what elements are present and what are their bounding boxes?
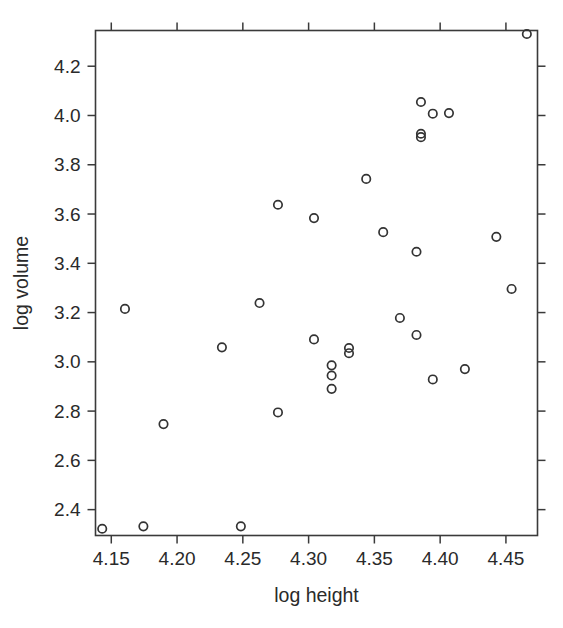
y-tick-label: 3.6 [54, 204, 80, 225]
y-tick-label: 2.6 [54, 450, 80, 471]
data-point[interactable] [492, 233, 500, 241]
plot-frame-box [96, 31, 538, 536]
data-point[interactable] [274, 201, 282, 209]
data-point[interactable] [412, 331, 420, 339]
data-point[interactable] [412, 248, 420, 256]
scatter-plot-figure: 4.154.204.254.304.354.404.452.42.62.83.0… [0, 0, 563, 628]
data-point[interactable] [417, 98, 425, 106]
data-point[interactable] [429, 375, 437, 383]
x-axis: 4.154.204.254.304.354.404.45 [93, 23, 525, 569]
data-point[interactable] [159, 420, 167, 428]
y-axis-title: log volume [10, 236, 32, 330]
x-tick-label: 4.40 [422, 548, 459, 569]
data-point[interactable] [362, 175, 370, 183]
y-tick-label: 3.4 [54, 253, 81, 274]
data-point[interactable] [345, 349, 353, 357]
data-point[interactable] [461, 365, 469, 373]
y-tick-label: 3.2 [54, 302, 80, 323]
y-tick-label: 3.0 [54, 351, 80, 372]
x-axis-title: log height [274, 584, 359, 606]
y-tick-label: 2.8 [54, 401, 80, 422]
y-axis: 2.42.62.83.03.23.43.63.84.04.2 [54, 56, 545, 520]
data-point[interactable] [445, 109, 453, 117]
y-tick-label: 4.0 [54, 105, 80, 126]
x-tick-label: 4.35 [356, 548, 393, 569]
data-point[interactable] [327, 361, 335, 369]
x-tick-label: 4.45 [487, 548, 524, 569]
data-point[interactable] [98, 525, 106, 533]
data-point[interactable] [237, 522, 245, 530]
x-tick-label: 4.20 [159, 548, 196, 569]
data-point[interactable] [274, 408, 282, 416]
data-point[interactable] [379, 228, 387, 236]
x-tick-label: 4.25 [224, 548, 261, 569]
data-point[interactable] [310, 335, 318, 343]
data-point[interactable] [327, 385, 335, 393]
plot-canvas: 4.154.204.254.304.354.404.452.42.62.83.0… [0, 0, 563, 628]
data-point[interactable] [121, 305, 129, 313]
data-point[interactable] [327, 371, 335, 379]
y-tick-label: 4.2 [54, 56, 80, 77]
data-point[interactable] [310, 214, 318, 222]
x-tick-label: 4.30 [290, 548, 327, 569]
data-points-group [98, 30, 531, 533]
y-tick-label: 2.4 [54, 499, 81, 520]
data-point[interactable] [139, 522, 147, 530]
data-point[interactable] [507, 285, 515, 293]
x-tick-label: 4.15 [93, 548, 130, 569]
y-tick-label: 3.8 [54, 154, 80, 175]
data-point[interactable] [429, 109, 437, 117]
data-point[interactable] [396, 314, 404, 322]
data-point[interactable] [218, 343, 226, 351]
data-point[interactable] [255, 299, 263, 307]
